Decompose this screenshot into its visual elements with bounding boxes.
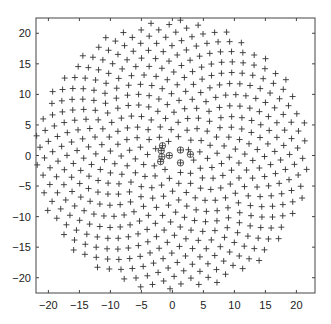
plus-marker xyxy=(69,139,75,145)
plus-marker xyxy=(165,202,171,208)
plus-marker xyxy=(49,198,55,204)
plus-marker xyxy=(259,204,265,210)
plus-marker xyxy=(295,172,301,178)
x-tick-label: 10 xyxy=(228,299,240,311)
plus-marker xyxy=(209,165,215,171)
plus-marker xyxy=(50,112,56,118)
plus-marker xyxy=(128,113,134,119)
plus-marker xyxy=(217,49,223,55)
plus-marker xyxy=(242,151,248,157)
plus-marker xyxy=(96,44,102,50)
plus-marker xyxy=(54,190,60,196)
plus-marker xyxy=(161,193,167,199)
plus-marker xyxy=(127,222,133,228)
plus-marker xyxy=(254,147,260,153)
plus-marker xyxy=(163,34,169,40)
plus-marker xyxy=(138,194,144,200)
plus-marker xyxy=(239,115,245,121)
plus-marker xyxy=(63,197,69,203)
plus-marker xyxy=(250,175,256,181)
plus-marker xyxy=(159,182,165,188)
plus-marker xyxy=(83,116,89,122)
plus-marker xyxy=(290,94,296,100)
plus-marker xyxy=(241,184,247,190)
plus-marker xyxy=(195,237,201,243)
plus-marker xyxy=(95,177,101,183)
plus-marker xyxy=(217,125,223,131)
plus-marker xyxy=(195,22,201,28)
plus-marker xyxy=(178,281,184,287)
plus-marker xyxy=(192,195,198,201)
plus-marker xyxy=(125,234,131,240)
plus-marker xyxy=(214,150,220,156)
plus-marker xyxy=(166,138,172,144)
plus-marker xyxy=(258,122,264,128)
plus-marker xyxy=(218,161,224,167)
plus-marker xyxy=(212,228,218,234)
plus-marker xyxy=(161,278,167,284)
plus-marker xyxy=(227,249,233,255)
plus-marker xyxy=(136,102,142,108)
plus-marker xyxy=(121,212,127,218)
plus-marker xyxy=(138,27,144,33)
plus-marker xyxy=(103,80,109,86)
plus-marker xyxy=(282,127,288,133)
plus-marker xyxy=(217,82,223,88)
plus-marker xyxy=(135,231,141,237)
plus-marker xyxy=(157,124,163,130)
plus-marker xyxy=(239,70,245,76)
plus-marker xyxy=(208,186,214,192)
plus-marker xyxy=(116,75,122,81)
y-tick-label: −15 xyxy=(12,241,31,253)
plus-marker xyxy=(137,218,143,224)
plus-marker xyxy=(262,154,268,160)
plus-marker xyxy=(225,205,231,211)
plus-marker xyxy=(164,239,170,245)
plus-marker xyxy=(64,130,70,136)
plus-marker xyxy=(74,148,80,154)
plus-marker xyxy=(190,246,196,252)
plus-marker xyxy=(135,124,141,130)
plus-marker xyxy=(231,239,237,245)
plus-marker xyxy=(168,219,174,225)
plus-marker xyxy=(214,218,220,224)
plus-marker xyxy=(155,269,161,275)
plus-marker xyxy=(181,268,187,274)
plus-marker xyxy=(126,82,132,88)
plus-marker xyxy=(222,234,228,240)
plus-marker xyxy=(183,190,189,196)
plus-marker xyxy=(247,105,253,111)
x-tick-label: 5 xyxy=(200,299,206,311)
plus-marker xyxy=(149,185,155,191)
plus-marker xyxy=(75,64,81,70)
plus-marker xyxy=(45,207,51,213)
plus-marker xyxy=(151,260,157,266)
plus-marker xyxy=(119,66,125,72)
plus-marker xyxy=(145,127,151,133)
plus-marker xyxy=(276,236,282,242)
plus-marker xyxy=(105,256,111,262)
plus-marker xyxy=(40,172,46,178)
plot-frame xyxy=(36,18,315,293)
plus-marker xyxy=(105,180,111,186)
plus-marker xyxy=(212,253,218,259)
plus-marker xyxy=(193,43,199,49)
plus-marker xyxy=(237,210,243,216)
plus-marker xyxy=(262,66,268,72)
x-axis: −20−15−10−505101520 xyxy=(39,18,302,311)
plus-marker xyxy=(202,197,208,203)
plus-marker xyxy=(290,210,296,216)
plus-marker xyxy=(208,61,214,67)
plus-marker xyxy=(97,201,103,207)
plus-marker xyxy=(248,129,254,135)
plus-marker xyxy=(229,59,235,65)
plus-marker xyxy=(247,223,253,229)
plus-marker xyxy=(223,271,229,277)
plus-marker xyxy=(229,167,235,173)
plus-marker xyxy=(197,165,203,171)
plus-marker xyxy=(71,237,77,243)
plus-marker xyxy=(141,72,147,78)
plus-marker xyxy=(70,160,76,166)
plus-marker xyxy=(181,74,187,80)
y-tick-label: −5 xyxy=(18,180,31,192)
